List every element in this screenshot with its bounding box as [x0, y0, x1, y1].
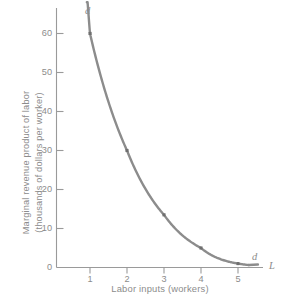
mrp-curve-draft2 — [89, 21, 246, 267]
mrp-curve-scratch — [89, 22, 146, 209]
mrp-curve-draft — [89, 21, 240, 266]
x-axis-variable-label: L — [269, 261, 275, 272]
data-point-l4 — [199, 246, 202, 249]
chart-container: Marginal revenue product of labor (thous… — [0, 0, 282, 301]
x-axis-ticks — [90, 268, 238, 274]
data-point-l3 — [162, 213, 165, 216]
y-axis-ticks — [57, 34, 64, 229]
curve-label-bottom-d: d — [252, 252, 257, 263]
mrp-demand-curve — [87, 2, 249, 265]
data-point-l1 — [88, 32, 91, 35]
data-point-l5 — [236, 262, 239, 265]
x-axis-title: Labor inputs (workers) — [56, 283, 264, 294]
data-point-l2 — [125, 149, 128, 152]
plot-area — [0, 0, 282, 301]
curve-label-top-d: d — [85, 6, 90, 17]
mrp-curve-tail — [249, 264, 258, 265]
